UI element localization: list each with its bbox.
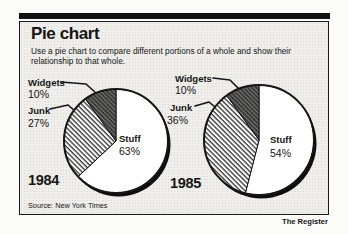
junk-value-1985: 36%: [167, 114, 188, 126]
year-label-1984: 1984: [28, 172, 59, 188]
widgets-1985-leader-line: [213, 78, 239, 89]
widgets-label-1985: Widgets: [175, 73, 212, 84]
pie-1984: [64, 89, 171, 197]
stuff-value-1985: 54%: [270, 147, 291, 159]
publication-credit: The Register: [282, 217, 328, 226]
widgets-value-1984: 10%: [28, 88, 49, 100]
junk-label-1984: Junk: [28, 105, 50, 116]
chart-description: Use a pie chart to compare different por…: [31, 47, 321, 66]
junk-value-1984: 27%: [28, 117, 49, 129]
stuff-label-1985: Stuff: [270, 134, 292, 145]
source-note: Source: New York Times: [28, 201, 108, 210]
widgets-value-1985: 10%: [175, 84, 196, 96]
junk-1985-leader-line: [195, 102, 215, 107]
widgets-1984-leader-line: [61, 82, 96, 93]
junk-1984-leader-line: [50, 105, 75, 111]
pie-1985: [204, 85, 317, 199]
year-label-1985: 1985: [170, 175, 201, 191]
stuff-value-1984: 63%: [119, 145, 140, 157]
widgets-label-1984: Widgets: [28, 77, 65, 88]
page-title: Pie chart: [31, 24, 99, 44]
stuff-label-1984: Stuff: [119, 133, 141, 144]
junk-label-1985: Junk: [170, 102, 192, 113]
